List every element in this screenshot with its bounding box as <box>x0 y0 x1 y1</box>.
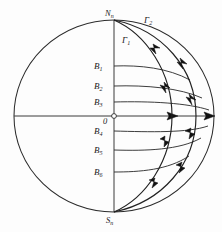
origin-dot <box>112 114 117 119</box>
contour-label-gamma-2: Г2 <box>143 15 152 26</box>
figure-container: Nn Sn 0 B1 B2 B3 B4 B5 B6 Г1 Г2 <box>0 0 222 232</box>
sphere-field-diagram: Nn Sn 0 B1 B2 B3 B4 B5 B6 Г1 Г2 <box>0 0 222 232</box>
north-pole-label: Nn <box>104 8 114 19</box>
contour-label-gamma-1: Г1 <box>121 35 130 46</box>
parallel-line-b1 <box>114 66 190 80</box>
parallel-label-b4: B4 <box>94 126 103 137</box>
origin-label: 0 <box>103 116 108 126</box>
flow-arrow-g1-n1-icon <box>150 44 160 54</box>
parallel-label-b2: B2 <box>94 81 103 92</box>
parallel-line-b5 <box>114 138 201 150</box>
parallel-label-b3: B3 <box>94 97 103 108</box>
parallel-label-b5: B5 <box>94 145 103 156</box>
parallel-line-b4 <box>114 126 208 132</box>
parallel-line-b2 <box>114 86 202 98</box>
parallel-label-b1: B1 <box>94 61 103 72</box>
south-pole-label: Sn <box>106 215 113 226</box>
flow-arrow-g2-n1-icon <box>177 58 187 69</box>
parallel-label-b6: B6 <box>94 167 103 178</box>
